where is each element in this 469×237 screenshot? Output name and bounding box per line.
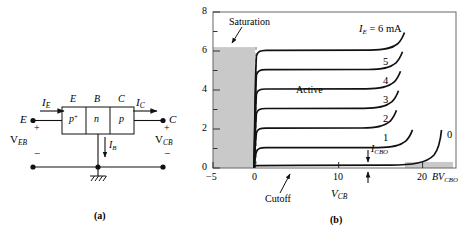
curve-label-ie-6: IE = 6 mA <box>359 24 402 36</box>
x-tick-0: 0 <box>252 172 257 182</box>
x-tick-10: 10 <box>333 172 343 182</box>
panel-b-caption: (b) <box>330 215 342 225</box>
curve-ie-2 <box>254 110 396 167</box>
curve-ie-0 <box>254 130 441 168</box>
annotation-icbo: ICBO <box>371 144 388 155</box>
saturation-leader-arrow <box>232 27 242 43</box>
annotation-saturation: Saturation <box>229 17 270 27</box>
curve-ie-3 <box>254 91 398 168</box>
curve-ie-1 <box>254 130 412 168</box>
y-tick-4: 4 <box>202 84 207 94</box>
breakdown-shaded-region <box>405 162 453 168</box>
curve-label-2: 2 <box>383 114 388 125</box>
curve-label-1: 1 <box>383 133 388 144</box>
x-tick-minus5: −5 <box>206 172 217 182</box>
figure-root: E C + + − − IE IC IB E B C p+ n p VEB VC… <box>0 0 469 237</box>
x-axis-breakdown-label: BVCBO <box>432 172 458 183</box>
saturation-shaded-region <box>213 47 255 168</box>
y-tick-6: 6 <box>202 45 207 55</box>
x-tick-20: 20 <box>417 172 427 182</box>
curve-label-3: 3 <box>383 95 388 106</box>
curve-label-4: 4 <box>383 76 388 87</box>
cutoff-leader-arrow <box>280 174 290 193</box>
curve-label-0: 0 <box>447 130 452 141</box>
y-tick-8: 8 <box>202 6 207 16</box>
annotation-cutoff: Cutoff <box>265 194 291 204</box>
y-tick-2: 2 <box>202 123 207 133</box>
x-axis-title: VCB <box>331 188 347 200</box>
annotation-active: Active <box>296 85 323 95</box>
curve-label-5: 5 <box>383 57 388 68</box>
